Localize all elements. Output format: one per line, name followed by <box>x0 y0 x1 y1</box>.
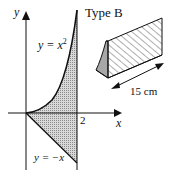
x-tick-label-2: 2 <box>80 115 86 126</box>
diagram-title: Type B <box>85 6 123 19</box>
curve-label-upper-text: y = x <box>38 38 63 52</box>
x-axis-label: x <box>116 117 121 129</box>
y-axis <box>22 11 30 170</box>
curve-label-upper-exponent: 2 <box>63 37 67 46</box>
curve-label-upper: y = x2 <box>38 38 67 51</box>
curve-label-lower: y = −x <box>34 152 64 163</box>
dimension-label: 15 cm <box>130 86 157 97</box>
shaded-region <box>26 10 77 163</box>
y-axis-label: y <box>14 6 19 18</box>
